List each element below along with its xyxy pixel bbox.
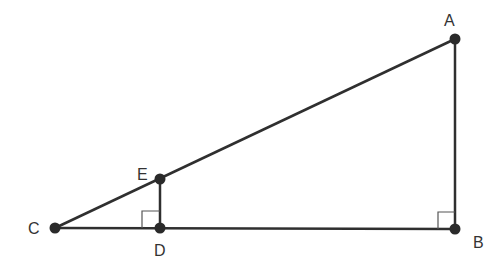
label-c: C [28,220,40,237]
label-a: A [444,12,455,29]
segment-ca [55,39,455,228]
segment-cb [55,228,455,229]
point-d [155,223,166,234]
label-b: B [473,234,484,251]
point-b [450,224,461,235]
label-e: E [137,166,148,183]
point-e [155,174,166,185]
point-a [450,34,461,45]
point-c [50,223,61,234]
label-d: D [154,242,166,259]
triangle-diagram: A B C D E [0,0,501,267]
